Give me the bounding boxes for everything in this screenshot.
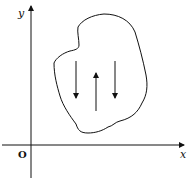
closed-region-curve (54, 14, 147, 133)
diagram-canvas: y x O (0, 0, 193, 184)
x-axis-label: x (180, 148, 187, 161)
y-axis-label: y (17, 7, 25, 20)
origin-label: O (18, 149, 27, 160)
